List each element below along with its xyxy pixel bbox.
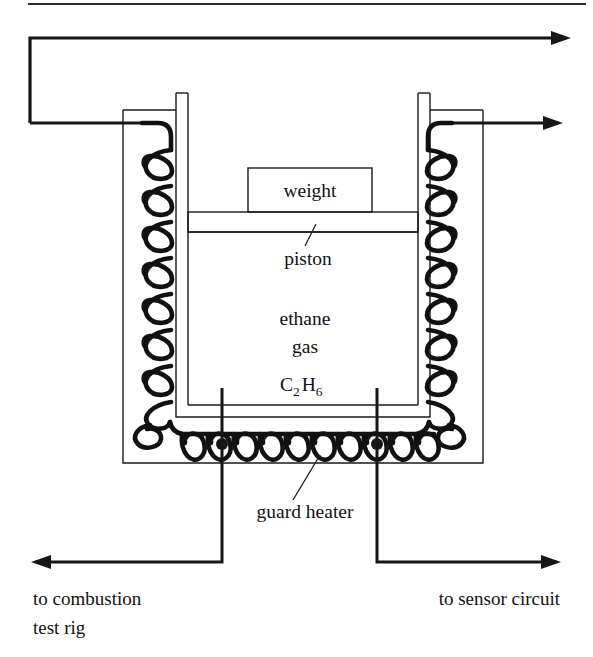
left-bottom-lead-wire [31,388,228,569]
formula-sub-6: 6 [316,384,323,399]
to-combustion-line1: to combustion [33,588,142,609]
bottom-right-arrow [541,555,561,569]
top-lead-wire [30,31,571,123]
guard-heater-label: guard heater [257,501,354,522]
formula-sub-2: 2 [293,384,300,399]
apparatus-diagram: weight piston ethane gas C2H6 guard heat… [0,0,593,657]
to-sensor-label: to sensor circuit [439,588,561,609]
weight-label: weight [283,180,337,201]
formula-c: C [280,374,293,395]
left-lead-junction [216,438,228,450]
right-bottom-lead-wire [371,388,561,569]
top-arrow-right [551,31,571,45]
gas-formula: C2H6 [280,374,323,399]
figure-root: weight piston ethane gas C2H6 guard heat… [0,0,593,657]
to-combustion-line2: test rig [33,617,86,638]
gas-name-line1: ethane [280,308,331,329]
upper-right-arrow [543,116,563,130]
right-lead-wire [452,116,563,130]
gas-name-line2: gas [292,336,318,357]
right-side-heater-coil [417,123,464,448]
formula-h: H [302,374,316,395]
right-lead-junction [371,438,383,450]
piston-leader-line [305,224,316,246]
piston-label: piston [284,248,332,269]
left-side-heater-coil [135,123,182,448]
bottom-left-arrow [31,555,51,569]
piston-bar [188,212,418,232]
